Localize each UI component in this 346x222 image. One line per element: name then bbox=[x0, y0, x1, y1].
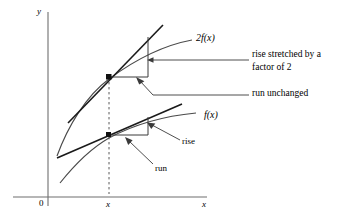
tangency-point-upper bbox=[106, 74, 112, 80]
annotation-rise-stretched-line2: factor of 2 bbox=[252, 62, 292, 73]
rise-run-triangle-upper bbox=[109, 37, 148, 77]
arrowhead-run-unchanged bbox=[136, 77, 144, 85]
curve-label-f-of-x: f(x) bbox=[204, 109, 218, 121]
y-axis-label: y bbox=[37, 6, 41, 17]
vertical-stretch-diagram: y x 0 x 2f(x) f(x) rise stretched by a f… bbox=[0, 0, 346, 222]
tangency-point-lower bbox=[106, 132, 111, 137]
x-tick-label: x bbox=[106, 199, 110, 210]
leader-run-unchanged bbox=[136, 77, 249, 95]
curve-2f-of-x bbox=[57, 40, 192, 156]
origin-label: 0 bbox=[39, 198, 44, 209]
axes-group bbox=[13, 12, 207, 206]
annotation-run: run bbox=[155, 163, 167, 174]
leader-rise-stretched bbox=[147, 57, 249, 62]
annotation-rise-stretched-line1: rise stretched by a bbox=[252, 49, 321, 60]
leader-run bbox=[125, 137, 153, 164]
annotation-run-unchanged: run unchanged bbox=[252, 88, 308, 99]
curve-label-2f-of-x: 2f(x) bbox=[196, 32, 215, 44]
leader-rise bbox=[147, 123, 180, 141]
diagram-canvas bbox=[0, 0, 346, 222]
annotation-rise: rise bbox=[182, 136, 195, 147]
tangent-line-2f-of-x bbox=[68, 25, 163, 123]
x-axis-label: x bbox=[202, 199, 206, 210]
